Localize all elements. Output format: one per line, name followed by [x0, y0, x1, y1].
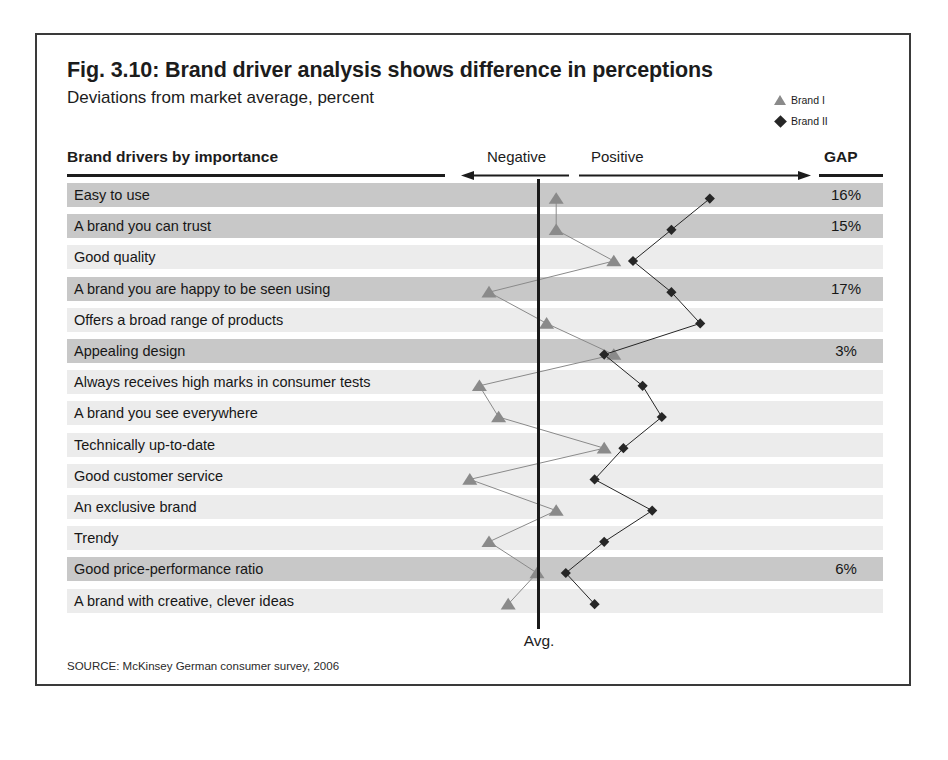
- legend-item-brand-i: Brand I: [769, 91, 881, 109]
- column-header-gap: GAP: [824, 148, 858, 166]
- row-label: Good customer service: [74, 464, 223, 488]
- row-label: A brand you are happy to be seen using: [74, 277, 330, 301]
- gap-value: [815, 370, 877, 394]
- triangle-icon: [769, 95, 791, 105]
- row-label: Appealing design: [74, 339, 185, 363]
- gap-value: [815, 308, 877, 332]
- row-label: Offers a broad range of products: [74, 308, 283, 332]
- gap-value: [815, 245, 877, 269]
- row-label: Technically up-to-date: [74, 433, 215, 457]
- row-band: [67, 526, 883, 550]
- table-row[interactable]: Appealing design3%: [67, 339, 883, 363]
- row-label: Good price-performance ratio: [74, 557, 263, 581]
- diamond-icon: [769, 117, 791, 126]
- gap-value: 17%: [815, 277, 877, 301]
- table-row[interactable]: Easy to use16%: [67, 183, 883, 207]
- table-row[interactable]: Good price-performance ratio6%: [67, 557, 883, 581]
- table-row[interactable]: A brand you see everywhere: [67, 401, 883, 425]
- page-title: Fig. 3.10: Brand driver analysis shows d…: [67, 58, 767, 83]
- chart-legend: Brand I Brand II: [769, 91, 881, 133]
- header-rule-left: [67, 174, 445, 177]
- table-row[interactable]: Offers a broad range of products: [67, 308, 883, 332]
- row-label: Good quality: [74, 245, 155, 269]
- driver-rows-area: Easy to use16%A brand you can trust15%Go…: [67, 183, 883, 619]
- figure-frame: Fig. 3.10: Brand driver analysis shows d…: [35, 33, 911, 686]
- legend-item-brand-ii: Brand II: [769, 112, 881, 130]
- axis-direction-label-positive: Positive: [591, 148, 644, 165]
- source-note: SOURCE: McKinsey German consumer survey,…: [67, 660, 339, 672]
- row-label: A brand you see everywhere: [74, 401, 258, 425]
- arrow-right-icon: [579, 171, 811, 180]
- table-row[interactable]: A brand you can trust15%: [67, 214, 883, 238]
- title-block: Fig. 3.10: Brand driver analysis shows d…: [67, 58, 767, 108]
- gap-value: [815, 433, 877, 457]
- row-band: [67, 339, 883, 363]
- legend-label-brand-i: Brand I: [791, 94, 825, 106]
- chart-subtitle: Deviations from market average, percent: [67, 88, 767, 108]
- gap-value: [815, 495, 877, 519]
- gap-value: [815, 401, 877, 425]
- table-row[interactable]: A brand with creative, clever ideas: [67, 589, 883, 613]
- gap-value: [815, 526, 877, 550]
- row-band: [67, 183, 883, 207]
- row-label: An exclusive brand: [74, 495, 197, 519]
- average-axis-label: Avg.: [511, 632, 567, 650]
- gap-value: [815, 464, 877, 488]
- row-label: Trendy: [74, 526, 119, 550]
- row-label: A brand with creative, clever ideas: [74, 589, 294, 613]
- table-row[interactable]: Trendy: [67, 526, 883, 550]
- gap-value: 16%: [815, 183, 877, 207]
- gap-value: 15%: [815, 214, 877, 238]
- header-rule-gap: [819, 174, 883, 177]
- table-row[interactable]: A brand you are happy to be seen using17…: [67, 277, 883, 301]
- table-row[interactable]: Technically up-to-date: [67, 433, 883, 457]
- gap-value: 6%: [815, 557, 877, 581]
- legend-label-brand-ii: Brand II: [791, 115, 828, 127]
- row-label: A brand you can trust: [74, 214, 211, 238]
- gap-value: [815, 589, 877, 613]
- table-row[interactable]: Good quality: [67, 245, 883, 269]
- average-axis-line: [537, 179, 540, 629]
- table-row[interactable]: Always receives high marks in consumer t…: [67, 370, 883, 394]
- gap-value: 3%: [815, 339, 877, 363]
- table-row[interactable]: Good customer service: [67, 464, 883, 488]
- table-row[interactable]: An exclusive brand: [67, 495, 883, 519]
- row-label: Always receives high marks in consumer t…: [74, 370, 371, 394]
- row-band: [67, 245, 883, 269]
- arrow-left-icon: [461, 171, 569, 180]
- column-header-row: Brand drivers by importance Negative Pos…: [67, 148, 883, 180]
- column-header-drivers: Brand drivers by importance: [67, 148, 278, 166]
- axis-direction-label-negative: Negative: [487, 148, 546, 165]
- row-label: Easy to use: [74, 183, 150, 207]
